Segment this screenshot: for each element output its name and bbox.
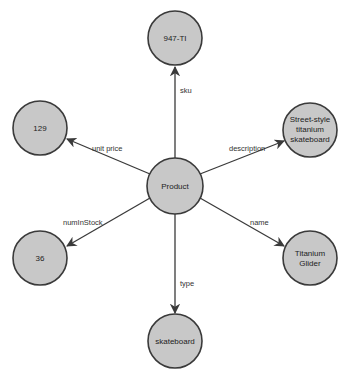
edge-unit-price: unit price (67, 139, 150, 174)
edge-num-in-stock: numInStock (63, 198, 150, 246)
edge-type: type (175, 214, 194, 313)
edge-sku: sku (175, 67, 192, 158)
edge-label-num-in-stock: numInStock (63, 218, 103, 227)
node-unit-price-label: 129 (33, 124, 47, 133)
node-sku-value: 947-TI (148, 11, 202, 65)
edge-label-name: name (250, 218, 269, 227)
edge-name-line (200, 198, 284, 246)
edge-label-unit-price: unit price (92, 144, 122, 153)
node-name-line-2: Glider (299, 259, 321, 268)
node-type-label: skateboard (155, 337, 195, 346)
edge-description: description (200, 141, 284, 174)
node-name-circle (283, 231, 337, 285)
node-name-line-1: Titanium (295, 249, 326, 258)
edge-label-description: description (229, 144, 265, 153)
node-unit-price-value: 129 (13, 101, 67, 155)
edge-name: name (200, 198, 284, 246)
node-sku-label: 947-TI (163, 34, 186, 43)
node-description-line-1: Street-style (290, 115, 331, 124)
node-description-value: Street-style titanium skateboard (283, 103, 337, 157)
node-num-in-stock-label: 36 (36, 254, 45, 263)
node-num-in-stock-value: 36 (13, 231, 67, 285)
edge-label-sku: sku (180, 86, 192, 95)
node-description-line-2: titanium (296, 125, 324, 134)
node-name-value: Titanium Glider (283, 231, 337, 285)
product-property-diagram: sku unit price description numInStock na… (0, 0, 351, 382)
node-product-label: Product (161, 182, 189, 191)
node-product: Product (147, 158, 203, 214)
node-type-value: skateboard (148, 314, 202, 368)
node-description-line-3: skateboard (290, 135, 330, 144)
edge-label-type: type (180, 279, 194, 288)
